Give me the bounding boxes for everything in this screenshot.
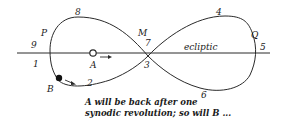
position-label-4: 4	[216, 7, 222, 17]
point-label-a: A	[90, 60, 97, 70]
caption-line-1: A will be back after one	[85, 97, 198, 108]
position-label-5: 5	[260, 42, 266, 52]
left-loop-path	[50, 17, 148, 86]
ecliptic-label: ecliptic	[184, 42, 217, 52]
position-label-1: 1	[33, 59, 39, 69]
body-b-arrowhead	[71, 81, 76, 85]
caption-line-2: synodic revolution; so will B ...	[85, 108, 231, 119]
body-a-arrowhead	[108, 55, 112, 59]
position-label-3: 3	[144, 60, 150, 70]
point-label-b: B	[47, 84, 54, 94]
point-label-m: M	[138, 28, 147, 38]
body-a-marker	[90, 50, 96, 56]
position-label-2: 2	[87, 78, 93, 88]
point-label-q: Q	[251, 30, 258, 40]
point-label-p: P	[41, 28, 47, 38]
position-label-7: 7	[145, 38, 151, 48]
position-label-9: 9	[31, 40, 37, 50]
body-b-marker	[56, 75, 62, 81]
position-label-6: 6	[201, 90, 207, 100]
position-label-8: 8	[75, 7, 81, 17]
body-b-arrow	[65, 80, 72, 83]
